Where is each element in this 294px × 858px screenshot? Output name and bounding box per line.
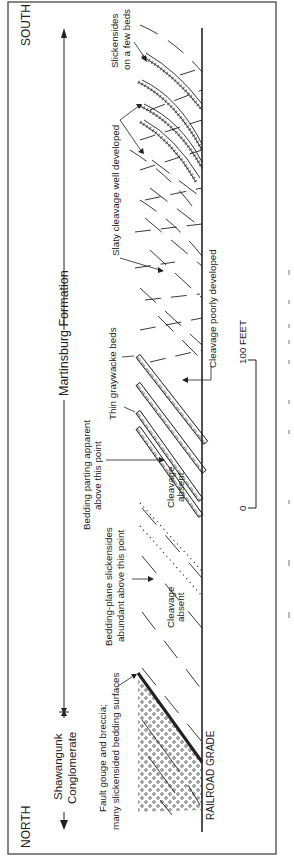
shawangunk-label-1: Shawangunk — [52, 733, 64, 800]
bedding-parting-annotation-2: above this point — [92, 441, 103, 510]
graywacke-beds-curved — [138, 53, 202, 182]
south-label: SOUTH — [19, 4, 33, 46]
bedding-parting-annotation-1: Bedding parting apparent — [81, 420, 92, 530]
scale-zero-label: 0 — [237, 505, 248, 511]
railroad-grade-label: RAILROAD GRADE — [205, 730, 216, 820]
martinsburg-label: Martinsburg Formation — [57, 270, 71, 396]
bp-slickensides-annotation-2: abundant above this point — [115, 530, 126, 642]
cleavage-crosshatch — [135, 68, 202, 362]
thin-graywacke-leaders — [122, 356, 135, 412]
bp-slickensides-arrow — [132, 576, 154, 582]
geologic-cross-section: NORTH SOUTH Shawangunk Conglomerate Mart… — [0, 0, 294, 858]
bp-slickensides-annotation-1: Bedding-plane slickensides — [103, 527, 114, 646]
slaty-cleavage-label: Slaty cleavage well developed — [110, 125, 121, 256]
north-label: NORTH — [19, 806, 33, 848]
arrow-down-icon — [60, 820, 68, 830]
caption-fragment — [288, 270, 290, 618]
shawangunk-label-2: Conglomerate — [66, 732, 78, 804]
fault-annotation-2: many slickensided bedding surfaces — [110, 673, 121, 830]
fault-annotation-1: Fault gouge and breccia; — [97, 704, 108, 812]
shawangunk-conglomerate-block — [138, 673, 202, 812]
thin-graywacke-label: Thin graywacke beds — [107, 327, 118, 420]
slickensides-few-label-1: Slickensides — [109, 13, 120, 68]
cleavage-absent-label-1b: absent — [175, 592, 186, 622]
slaty-cleavage-leaders — [120, 104, 164, 273]
scale-bar — [248, 360, 256, 508]
cleavage-poorly-label: Cleavage poorly developed — [207, 249, 218, 368]
slickensides-few-leader — [134, 42, 147, 62]
scale-max-label: 100 FEET — [237, 320, 248, 364]
slickensides-few-label-2: on a few beds — [121, 9, 132, 70]
arrow-up-icon — [61, 28, 67, 38]
dashed-bedding-lines-south — [130, 25, 202, 256]
